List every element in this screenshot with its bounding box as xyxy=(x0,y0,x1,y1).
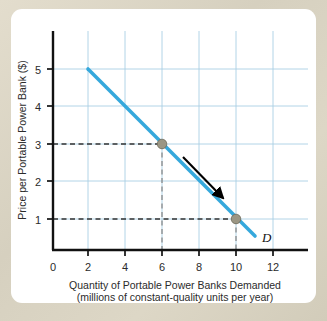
x-axis-tick-labels: 0 2 4 6 8 10 12 xyxy=(50,261,279,273)
demand-curve-line xyxy=(88,69,255,236)
y-axis-title: Price per Portable Power Bank ($) xyxy=(16,60,28,219)
xtick-label-0: 0 xyxy=(50,261,56,273)
data-point-10-1 xyxy=(231,214,241,224)
x-axis-title-line1: Quantity of Portable Power Banks Demande… xyxy=(69,279,281,291)
ytick-label-3: 3 xyxy=(35,139,41,151)
demand-curve-label: D xyxy=(261,230,272,245)
xtick-label-12: 12 xyxy=(267,261,279,273)
xtick-label-4: 4 xyxy=(122,261,128,273)
y-axis-tick-labels: 5 4 3 2 1 xyxy=(35,64,41,226)
xtick-label-8: 8 xyxy=(196,261,202,273)
demand-curve-chart: 5 4 3 2 1 0 2 4 6 8 10 12 Quantity of Po… xyxy=(11,9,316,303)
xtick-label-2: 2 xyxy=(85,261,91,273)
guide-lines xyxy=(53,144,236,250)
xtick-label-6: 6 xyxy=(159,261,165,273)
xtick-label-10: 10 xyxy=(230,261,242,273)
ytick-label-1: 1 xyxy=(35,214,41,226)
ytick-label-2: 2 xyxy=(35,176,41,188)
x-axis-title-line2: (millions of constant-quality units per … xyxy=(77,291,274,303)
chart-card: 5 4 3 2 1 0 2 4 6 8 10 12 Quantity of Po… xyxy=(11,9,316,303)
movement-along-curve-arrow xyxy=(183,157,223,198)
figure-background: 5 4 3 2 1 0 2 4 6 8 10 12 Quantity of Po… xyxy=(0,0,327,321)
ytick-label-4: 4 xyxy=(35,101,41,113)
grid-vertical xyxy=(88,31,273,250)
ytick-label-5: 5 xyxy=(35,64,41,76)
data-point-6-3 xyxy=(157,139,167,149)
